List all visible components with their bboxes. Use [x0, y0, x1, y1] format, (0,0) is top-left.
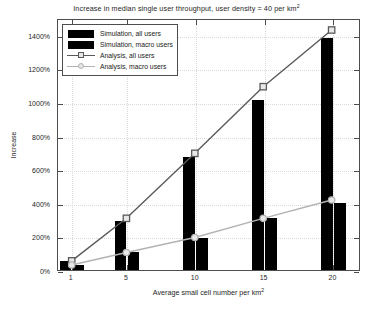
- data-point-marker: [192, 150, 198, 156]
- data-point-marker: [192, 234, 198, 240]
- legend-line-circle-icon: [66, 61, 96, 72]
- legend-label: Analysis, all users: [100, 52, 154, 59]
- chart-title-text: Increase in median single user throughpu…: [73, 4, 296, 13]
- x-axis-title-text: Average small cell number per km: [153, 288, 262, 297]
- y-axis-title: Increase: [10, 132, 17, 159]
- x-tick-label: 5: [124, 274, 128, 281]
- y-tick-label: 600%: [32, 167, 50, 174]
- legend-item-analysis-all: Analysis, all users: [66, 50, 173, 61]
- data-point-marker: [328, 27, 334, 33]
- plot-area: Simulation, all users Simulation, macro …: [57, 19, 360, 271]
- data-point-marker: [260, 215, 266, 221]
- data-point-marker: [123, 249, 129, 255]
- y-tick-label: 400%: [32, 200, 50, 207]
- legend-swatch-bar-icon: [66, 39, 96, 50]
- x-tick-label: 10: [191, 274, 199, 281]
- legend-item-simulation-macro: Simulation, macro users: [66, 39, 173, 50]
- data-point-marker: [328, 197, 334, 203]
- x-tick-label: 20: [329, 274, 337, 281]
- legend-label: Simulation, all users: [100, 30, 161, 37]
- x-axis-title: Average small cell number per km2: [57, 287, 360, 297]
- legend-label: Analysis, macro users: [100, 63, 166, 70]
- x-axis-title-superscript: 2: [261, 287, 264, 293]
- legend-label: Simulation, macro users: [100, 41, 173, 48]
- y-tick-label: 1400%: [28, 32, 50, 39]
- legend-item-simulation-all: Simulation, all users: [66, 28, 173, 39]
- data-point-marker: [69, 262, 75, 268]
- legend: Simulation, all users Simulation, macro …: [62, 24, 178, 76]
- legend-item-analysis-macro: Analysis, macro users: [66, 61, 173, 72]
- data-point-marker: [123, 215, 129, 221]
- line-series: [72, 200, 332, 265]
- y-tick: [58, 272, 63, 273]
- data-point-marker: [260, 83, 266, 89]
- y-tick-label: 0%: [40, 268, 50, 275]
- x-tick-label: 15: [260, 274, 268, 281]
- x-tick-label: 1: [69, 274, 73, 281]
- y-axis-title-wrap: Increase: [2, 19, 16, 271]
- y-tick-label: 200%: [32, 234, 50, 241]
- legend-swatch-bar-icon: [66, 28, 96, 39]
- y-tick-label: 800%: [32, 133, 50, 140]
- chart-title: Increase in median single user throughpu…: [0, 3, 373, 13]
- legend-line-square-icon: [66, 50, 96, 61]
- y-tick-label: 1200%: [28, 66, 50, 73]
- y-tick-label: 1000%: [28, 100, 50, 107]
- y-tick-right: [354, 272, 359, 273]
- chart-title-superscript: 2: [297, 3, 300, 9]
- figure: Increase in median single user throughpu…: [0, 0, 373, 309]
